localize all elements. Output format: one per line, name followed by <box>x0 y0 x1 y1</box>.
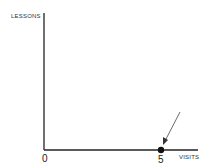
axes-plot <box>0 0 209 168</box>
arrow-shaft <box>165 112 180 141</box>
x-axis-label: VISITS <box>179 154 199 160</box>
y-axis-label: LESSONS <box>11 13 41 19</box>
origin-tick: 0 <box>42 153 48 164</box>
arrow-head-icon <box>163 137 168 145</box>
data-point <box>158 147 164 153</box>
point-tick: 5 <box>158 154 164 165</box>
diagram: LESSONS 0 5 VISITS <box>0 0 209 168</box>
